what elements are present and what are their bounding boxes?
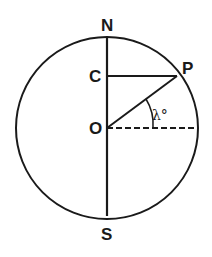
label-angle: λ° bbox=[152, 107, 168, 123]
latitude-diagram: N S O C P λ° bbox=[0, 0, 212, 257]
label-o: O bbox=[89, 119, 102, 138]
label-c: C bbox=[89, 67, 101, 86]
label-s: S bbox=[101, 225, 112, 244]
label-n: N bbox=[101, 16, 113, 35]
label-p: P bbox=[182, 59, 193, 78]
